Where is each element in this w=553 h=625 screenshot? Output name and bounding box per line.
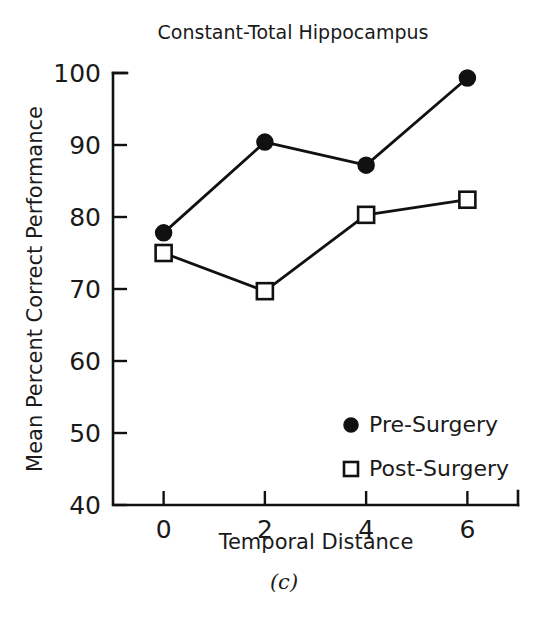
x-tick-label: 6	[459, 515, 475, 544]
data-point-marker	[156, 245, 172, 261]
y-tick-label: 90	[69, 131, 101, 160]
x-axis-title: Temporal Distance	[218, 530, 414, 554]
axis-spines	[113, 73, 518, 505]
y-axis-title: Mean Percent Correct Performance	[23, 106, 47, 472]
data-point-marker	[257, 134, 273, 150]
series-line	[164, 78, 468, 233]
y-tick-label: 50	[69, 419, 101, 448]
x-tick-label: 4	[358, 515, 374, 544]
panel-caption: (c)	[270, 570, 298, 594]
y-tick-label: 60	[69, 347, 101, 376]
legend-label: Pre-Surgery	[369, 412, 498, 437]
data-point-marker	[358, 207, 374, 223]
y-tick-label: 80	[69, 203, 101, 232]
y-tick-label: 70	[69, 275, 101, 304]
line-chart: Constant-Total Hippocampus Mean Percent …	[0, 0, 553, 625]
series-line	[164, 200, 468, 291]
x-tick-label: 0	[156, 515, 172, 544]
legend-label: Post-Surgery	[369, 456, 509, 481]
data-series-layer	[156, 70, 476, 299]
data-point-marker	[459, 70, 475, 86]
data-point-marker	[156, 225, 172, 241]
chart-legend: Pre-SurgeryPost-Surgery	[344, 412, 509, 481]
data-point-marker	[459, 192, 475, 208]
y-tick-label: 40	[69, 491, 101, 520]
legend-marker	[344, 418, 358, 432]
data-point-marker	[257, 283, 273, 299]
legend-marker	[344, 462, 358, 476]
data-point-marker	[358, 157, 374, 173]
x-tick-label: 2	[257, 515, 273, 544]
y-axis-ticks: 405060708090100	[53, 59, 127, 520]
chart-title: Constant-Total Hippocampus	[158, 21, 429, 43]
figure-panel: Constant-Total Hippocampus Mean Percent …	[0, 0, 553, 625]
y-tick-label: 100	[53, 59, 101, 88]
